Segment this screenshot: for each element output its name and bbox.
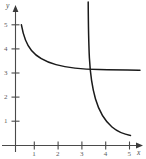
x-axis-label: x bbox=[137, 149, 140, 157]
chart-figure: 5 4 3 2 1 1 2 3 4 5 y x bbox=[0, 0, 146, 159]
plot-area bbox=[0, 0, 146, 159]
curve-1-path bbox=[21, 25, 140, 70]
curve-2-path bbox=[88, 2, 130, 135]
y-tick-label-5: 5 bbox=[4, 22, 8, 29]
y-tick-label-1: 1 bbox=[4, 118, 8, 125]
x-tick-label-3: 3 bbox=[80, 151, 84, 158]
y-tick-label-3: 3 bbox=[4, 70, 8, 77]
y-axis-label: y bbox=[6, 2, 9, 10]
x-tick-label-1: 1 bbox=[32, 151, 36, 158]
x-tick-label-5: 5 bbox=[128, 151, 132, 158]
y-tick-label-2: 2 bbox=[4, 94, 8, 101]
y-axis-arrow-icon bbox=[13, 5, 19, 12]
y-tick-label-4: 4 bbox=[4, 46, 8, 53]
x-tick-label-2: 2 bbox=[56, 151, 60, 158]
x-tick-label-4: 4 bbox=[104, 151, 108, 158]
